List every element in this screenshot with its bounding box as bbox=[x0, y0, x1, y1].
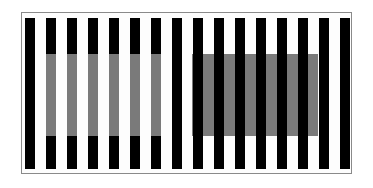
vertical-bar bbox=[277, 18, 287, 169]
gray-bar-patch bbox=[130, 54, 140, 136]
gray-bar-patch bbox=[46, 54, 56, 136]
vertical-bar bbox=[25, 18, 35, 169]
gray-bar-patch bbox=[151, 54, 161, 136]
gray-bar-patch bbox=[88, 54, 98, 136]
gray-bar-patch bbox=[109, 54, 119, 136]
gray-bar-patch bbox=[67, 54, 77, 136]
vertical-bar bbox=[214, 18, 224, 169]
illusion-stage bbox=[0, 0, 373, 188]
vertical-bar bbox=[193, 18, 203, 169]
vertical-bar bbox=[340, 18, 350, 169]
vertical-bar bbox=[256, 18, 266, 169]
vertical-bar bbox=[235, 18, 245, 169]
vertical-bar bbox=[172, 18, 182, 169]
vertical-bar bbox=[319, 18, 329, 169]
vertical-bar bbox=[298, 18, 308, 169]
